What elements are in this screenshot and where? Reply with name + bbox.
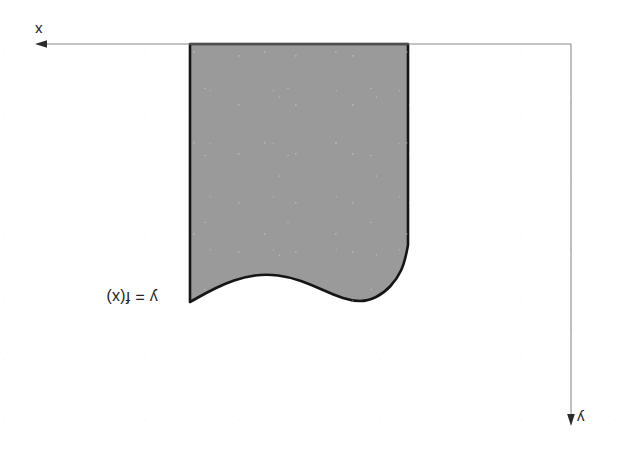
figure-canvas: x y y = f(x): [0, 0, 618, 460]
shaded-region-under-curve: [190, 44, 408, 302]
y-axis-arrowhead-icon: [567, 414, 575, 426]
x-axis-label: x: [35, 23, 43, 38]
x-axis-arrowhead-icon: [35, 40, 47, 48]
y-axis-label: y: [577, 411, 585, 426]
curve-equation-label: y = f(x): [106, 289, 158, 305]
diagram-svg: [0, 0, 618, 460]
